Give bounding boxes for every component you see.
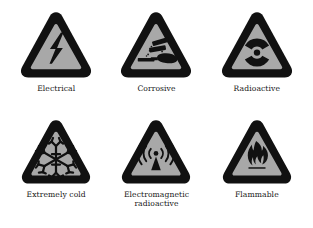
sign-label-extremely-cold: Extremely cold — [26, 191, 85, 200]
sign-card-radioactive: Radioactive — [207, 8, 307, 116]
electrical-warning-sign — [18, 8, 94, 82]
high-voltage-lightning-bolt-icon — [18, 8, 94, 82]
sign-card-extremely-cold: Extremely cold — [6, 116, 106, 224]
sign-label-electromagnetic: Electromagneticradioactive — [124, 191, 189, 209]
flame-icon — [220, 116, 294, 188]
sign-card-electrical: Electrical — [6, 8, 106, 116]
snowflake-icon — [19, 116, 93, 188]
flammable-warning-sign — [220, 116, 294, 188]
sign-label-corrosive: Corrosive — [137, 85, 175, 94]
electromagnetic-antenna-waves-icon — [119, 116, 193, 188]
radioactive-warning-sign — [219, 8, 295, 82]
sign-label-radioactive: Radioactive — [234, 85, 280, 94]
electromagnetic-warning-sign — [119, 116, 193, 188]
sign-label-electromagnetic-line2: radioactive — [134, 199, 178, 208]
extremely-cold-warning-sign — [19, 116, 93, 188]
sign-card-electromagnetic: Electromagneticradioactive — [106, 116, 206, 224]
sign-label-electrical: Electrical — [37, 85, 75, 94]
corrosive-test-tubes-hand-icon — [118, 8, 194, 82]
sign-card-flammable: Flammable — [207, 116, 307, 224]
sign-label-electromagnetic-line1: Electromagnetic — [124, 190, 189, 199]
hazard-sign-grid: Electrical — [0, 0, 313, 228]
corrosive-warning-sign — [118, 8, 194, 82]
radioactive-trefoil-icon — [219, 8, 295, 82]
sign-card-corrosive: Corrosive — [106, 8, 206, 116]
sign-label-flammable: Flammable — [235, 191, 279, 200]
